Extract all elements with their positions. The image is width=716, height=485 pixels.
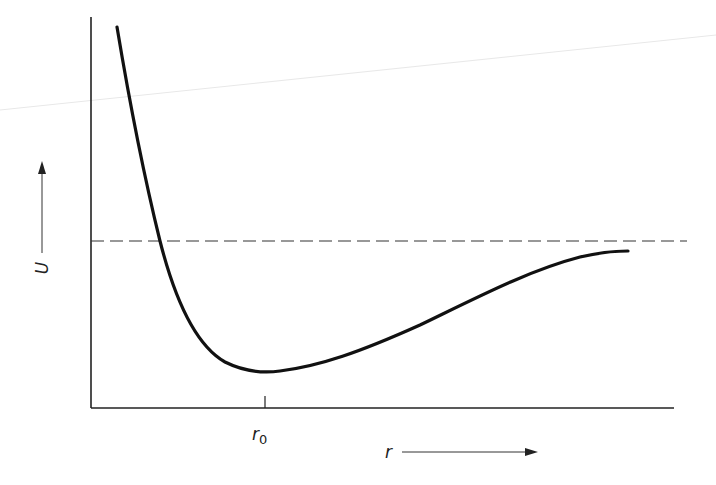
potential-curve <box>117 27 628 372</box>
x-axis-label: r <box>385 442 393 462</box>
x-direction-arrow-head-icon <box>525 448 538 456</box>
y-axis-label: U <box>32 261 52 274</box>
y-direction-arrow-head-icon <box>38 161 46 174</box>
scan-artifact-line <box>0 35 716 110</box>
potential-energy-diagram: r0 U r <box>0 0 716 485</box>
r0-tick-label: r0 <box>252 424 267 447</box>
